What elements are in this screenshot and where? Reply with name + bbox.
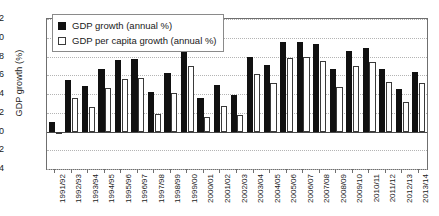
x-axis-tick: 1995/96 <box>124 174 133 203</box>
x-axis-tick-mark <box>253 169 254 173</box>
x-axis-tick-mark <box>418 169 419 173</box>
bar <box>379 69 385 132</box>
x-axis-tick-mark <box>137 169 138 173</box>
bar <box>155 114 161 132</box>
x-axis-tick-mark <box>87 169 88 173</box>
bar <box>396 89 402 131</box>
bar <box>122 79 128 132</box>
x-axis-tick-mark <box>104 169 105 173</box>
x-axis-tick: 1998/99 <box>173 174 182 203</box>
bar <box>98 69 104 132</box>
x-axis-tick-mark <box>335 169 336 173</box>
x-axis-tick: 2003/04 <box>256 174 265 203</box>
x-axis-tick-mark <box>71 169 72 173</box>
bar <box>363 48 369 131</box>
y-axis-tick: 10 <box>0 32 4 42</box>
y-axis-tick: 6 <box>0 69 4 79</box>
x-axis-tick-mark <box>319 169 320 173</box>
x-axis-tick-mark <box>352 169 353 173</box>
x-axis-tick-mark <box>219 169 220 173</box>
chart-figure: GDP growth (%) 121086420-2-4 1991/921992… <box>0 0 439 216</box>
y-axis-tick: 8 <box>0 51 4 61</box>
x-axis-tick: 2010/11 <box>372 174 381 202</box>
x-axis-tick-mark <box>302 169 303 173</box>
x-axis-tick: 2002/03 <box>240 174 249 203</box>
x-axis-tick-mark <box>236 169 237 173</box>
x-axis-tick: 2011/12 <box>388 174 397 202</box>
bar <box>164 73 170 131</box>
x-axis-tick: 1997/98 <box>157 174 166 203</box>
x-axis-tick-mark <box>186 169 187 173</box>
bar <box>204 117 210 131</box>
bar <box>138 78 144 131</box>
bar <box>148 92 154 131</box>
x-axis-tick: 2012/13 <box>405 174 414 203</box>
x-axis-tick: 1999/00 <box>190 174 199 203</box>
x-axis-tick-mark <box>203 169 204 173</box>
bar <box>297 42 303 132</box>
x-axis-tick: 2007/08 <box>322 174 331 203</box>
legend-item: GDP growth (annual %) <box>58 18 217 33</box>
bar <box>115 60 121 131</box>
x-axis-tick-mark <box>368 169 369 173</box>
bar <box>313 44 319 131</box>
x-axis-tick-mark <box>153 169 154 173</box>
x-axis-tick: 2005/06 <box>289 174 298 203</box>
x-axis-tick: 1992/93 <box>74 174 83 203</box>
x-axis-tick: 1996/97 <box>140 174 149 203</box>
bar <box>287 58 293 131</box>
bar <box>214 85 220 132</box>
chart-legend: GDP growth (annual %) GDP per capita gro… <box>52 14 224 52</box>
bar <box>237 115 243 132</box>
y-axis-tick: -4 <box>0 163 4 173</box>
legend-label-gdp-per-capita-growth: GDP per capita growth (annual %) <box>72 35 217 46</box>
legend-item: GDP per capita growth (annual %) <box>58 33 217 48</box>
bar <box>56 132 62 134</box>
x-axis-tick: 1991/92 <box>58 174 67 203</box>
bar <box>280 42 286 131</box>
bar <box>386 82 392 132</box>
x-axis-tick: 2009/10 <box>355 174 364 203</box>
x-axis-tick-mark <box>385 169 386 173</box>
x-axis-tick-mark <box>54 169 55 173</box>
legend-swatch-gdp-growth <box>58 22 66 30</box>
bar <box>105 88 111 131</box>
bar <box>188 66 194 132</box>
x-axis-tick: 2000/01 <box>206 174 215 203</box>
y-axis-tick: -2 <box>0 144 4 154</box>
legend-swatch-gdp-per-capita-growth <box>58 37 66 45</box>
bar <box>412 72 418 132</box>
bar <box>221 106 227 131</box>
bar <box>171 93 177 131</box>
x-axis-tick: 1994/95 <box>107 174 116 203</box>
x-axis-tick-mark <box>120 169 121 173</box>
bar <box>369 62 375 131</box>
bar <box>231 95 237 132</box>
bar <box>197 98 203 132</box>
bar <box>49 122 55 131</box>
bar <box>254 74 260 131</box>
bar <box>303 57 309 131</box>
bar <box>403 102 409 132</box>
bar <box>264 65 270 132</box>
x-axis-tick: 2004/05 <box>273 174 282 203</box>
bar <box>89 107 95 131</box>
y-axis-tick: 0 <box>0 126 4 136</box>
x-axis-tick: 2006/07 <box>306 174 315 203</box>
bar <box>65 80 71 132</box>
bar <box>419 83 425 132</box>
x-axis-tick: 1993/94 <box>91 174 100 203</box>
bar <box>330 69 336 132</box>
bar <box>346 51 352 132</box>
y-axis-tick: 4 <box>0 88 4 98</box>
x-axis-tick: 2001/02 <box>223 174 232 203</box>
x-axis-tick: 2013/14 <box>421 174 430 203</box>
bar <box>270 83 276 132</box>
bar <box>72 98 78 132</box>
y-axis-tick: 12 <box>0 13 4 23</box>
y-axis-tick: 2 <box>0 107 4 117</box>
legend-label-gdp-growth: GDP growth (annual %) <box>72 20 172 31</box>
bar <box>131 59 137 131</box>
x-axis-tick: 2008/09 <box>339 174 348 203</box>
x-axis-tick-mark <box>401 169 402 173</box>
